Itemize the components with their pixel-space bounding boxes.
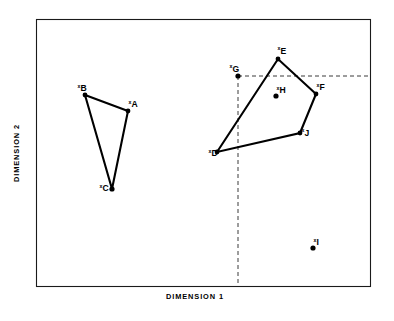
data-point-h[interactable] (273, 93, 278, 98)
data-point-a[interactable] (126, 109, 131, 114)
data-point-label-j: J (305, 128, 310, 138)
triangle-abc (85, 95, 128, 189)
plot-canvas: x x x x x x x x x x A B C D E F G H I J … (0, 0, 394, 321)
data-point-label-b: B (81, 83, 87, 93)
plot-frame (37, 20, 371, 287)
data-point-label-d: D (212, 148, 218, 158)
data-point-label-a: A (132, 99, 138, 109)
y-axis-label: DIMENSION 2 (12, 124, 21, 182)
data-point-label-c: C (103, 183, 109, 193)
data-point-label-h: H (280, 85, 286, 95)
data-point-label-f: F (320, 82, 325, 92)
data-point-g[interactable] (235, 73, 240, 78)
data-point-e[interactable] (276, 57, 281, 62)
data-point-b[interactable] (83, 93, 88, 98)
data-point-label-i: I (317, 237, 319, 247)
scatter-plot-figure: x x x x x x x x x x A B C D E F G H I J … (0, 0, 394, 321)
data-point-i[interactable] (310, 245, 315, 250)
data-point-label-e: E (281, 46, 287, 56)
data-point-label-g: G (233, 64, 240, 74)
data-point-c[interactable] (109, 186, 114, 191)
x-axis-label: DIMENSION 1 (166, 292, 224, 301)
data-point-f[interactable] (314, 92, 319, 97)
